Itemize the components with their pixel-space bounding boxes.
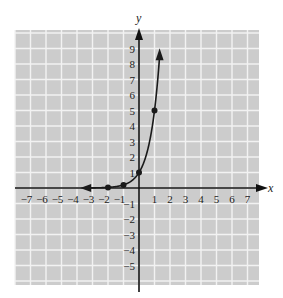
svg-text:−3: −3: [83, 193, 95, 205]
svg-text:4: 4: [198, 193, 204, 205]
svg-text:2: 2: [130, 151, 136, 163]
svg-text:7: 7: [245, 193, 251, 205]
y-axis-label: y: [135, 11, 142, 25]
svg-text:−5: −5: [123, 260, 135, 272]
svg-text:2: 2: [167, 193, 173, 205]
svg-text:−4: −4: [123, 244, 135, 256]
svg-text:1: 1: [130, 167, 136, 179]
svg-text:−7: −7: [21, 193, 33, 205]
svg-text:7: 7: [130, 74, 136, 86]
svg-text:6: 6: [130, 89, 136, 101]
svg-text:6: 6: [229, 193, 235, 205]
svg-text:−4: −4: [67, 193, 79, 205]
svg-text:5: 5: [130, 105, 136, 117]
svg-text:3: 3: [130, 136, 136, 148]
svg-text:−1: −1: [123, 198, 135, 210]
svg-text:−3: −3: [123, 229, 135, 241]
svg-text:9: 9: [130, 43, 136, 55]
svg-text:1: 1: [152, 193, 158, 205]
svg-text:−6: −6: [36, 193, 48, 205]
svg-text:−2: −2: [123, 213, 135, 225]
svg-text:−5: −5: [52, 193, 64, 205]
exponential-graph: −7−6−5−4−3−2−11234567987654321−1−2−3−4−5…: [0, 0, 283, 298]
svg-text:8: 8: [130, 58, 136, 70]
x-axis-label: x: [267, 181, 274, 195]
svg-text:−2: −2: [98, 193, 110, 205]
svg-text:3: 3: [183, 193, 189, 205]
svg-text:5: 5: [214, 193, 220, 205]
svg-text:4: 4: [130, 120, 136, 132]
